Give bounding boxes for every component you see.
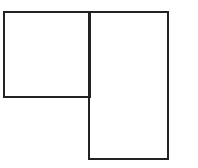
left-square: [3, 11, 91, 98]
right-rectangle: [88, 11, 169, 160]
diagram-canvas: [0, 0, 198, 168]
